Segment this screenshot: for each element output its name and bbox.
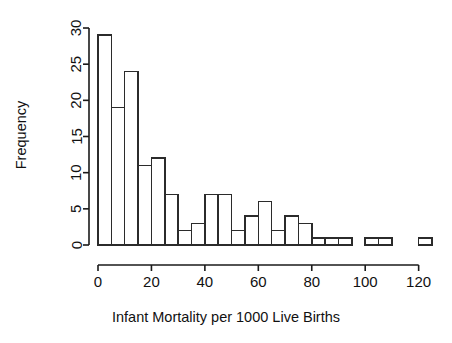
y-axis-tick-label: 0: [68, 241, 85, 249]
histogram-bar: [258, 202, 271, 245]
histogram-bar: [205, 194, 218, 245]
y-axis-tick-label: 5: [68, 205, 85, 213]
histogram-bar: [111, 108, 124, 245]
histogram-bar: [365, 238, 378, 245]
plot-canvas: 051015202530 020406080100120 Infant Mort…: [0, 0, 452, 343]
histogram-bar: [285, 216, 298, 245]
histogram-bar: [312, 238, 325, 245]
histogram-bar: [165, 194, 178, 245]
histogram-bar: [245, 216, 258, 245]
x-axis-tick-label: 100: [353, 273, 378, 290]
histogram-bar: [98, 35, 111, 245]
histogram-bar: [192, 223, 205, 245]
histogram-bar: [125, 71, 138, 245]
x-axis-tick-label: 20: [143, 273, 160, 290]
y-axis-tick-label: 25: [68, 56, 85, 73]
x-axis-tick-label: 120: [406, 273, 431, 290]
histogram-bar: [218, 194, 231, 245]
y-axis-tick-label: 20: [68, 92, 85, 109]
histogram-bar: [325, 238, 338, 245]
x-axis-tick-label: 80: [303, 273, 320, 290]
histogram-bar: [178, 231, 191, 245]
histogram-plot: 051015202530 020406080100120 Infant Mort…: [0, 0, 452, 343]
x-axis-tick-label: 40: [197, 273, 214, 290]
histogram-bar: [232, 231, 245, 245]
y-axis-title: Frequency: [13, 100, 29, 169]
histogram-bar: [379, 238, 392, 245]
x-axis-tick-label: 0: [94, 273, 102, 290]
y-axis-tick-label: 30: [68, 20, 85, 37]
y-axis-tick-label: 10: [68, 164, 85, 181]
histogram-bar: [138, 165, 151, 245]
x-axis-tick-label: 60: [250, 273, 267, 290]
y-axis-tick-label: 15: [68, 128, 85, 145]
histogram-bar: [272, 231, 285, 245]
histogram-bar: [151, 158, 164, 245]
histogram-bar: [338, 238, 351, 245]
x-axis-title: Infant Mortality per 1000 Live Births: [112, 309, 340, 325]
histogram-bar: [419, 238, 432, 245]
histogram-bar: [298, 223, 311, 245]
